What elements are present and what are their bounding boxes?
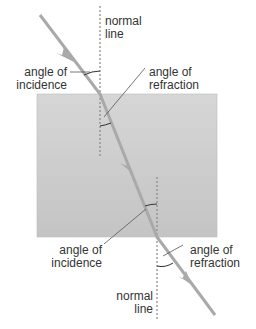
label-text: refraction <box>190 257 240 270</box>
label-angle-of-incidence-bottom: angle of incidence <box>40 244 102 270</box>
label-text: incidence <box>40 257 102 270</box>
angle-arc-refraction-bottom <box>157 263 173 267</box>
label-text: incidence <box>8 79 67 92</box>
label-angle-of-refraction-bottom: angle of refraction <box>190 244 240 270</box>
label-normal-line-bottom: normal line <box>100 290 153 316</box>
label-angle-of-refraction-top: angle of refraction <box>149 66 199 92</box>
diagram-canvas <box>0 0 256 329</box>
label-text: refraction <box>149 79 199 92</box>
label-angle-of-incidence-top: angle of incidence <box>8 66 67 92</box>
label-normal-line-top: normal line <box>105 15 142 41</box>
label-text: line <box>100 303 153 316</box>
label-text: line <box>105 28 142 41</box>
